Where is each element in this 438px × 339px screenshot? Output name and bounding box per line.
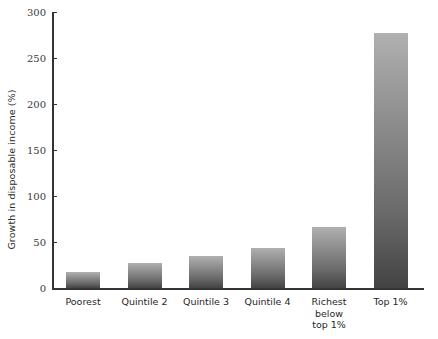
y-axis-tick-label: 300 (27, 7, 46, 18)
bar-chart: Growth in disposable income (%) 05010015… (0, 0, 438, 339)
y-axis-tick-label: 100 (27, 191, 46, 202)
y-axis-tick-label: 150 (27, 145, 46, 156)
y-axis-tick-mark (53, 150, 57, 151)
bar (189, 256, 223, 288)
plot-area: 050100150200250300 PoorestQuintile 2Quin… (53, 12, 424, 288)
y-axis-tick-mark (53, 242, 57, 243)
x-axis-tick-label: Top 1% (355, 296, 427, 308)
bar (66, 272, 100, 288)
y-axis-tick-mark (53, 288, 57, 289)
x-axis-line (52, 288, 424, 290)
y-axis-tick-mark (53, 58, 57, 59)
y-axis-tick-mark (53, 104, 57, 105)
y-axis-tick-label: 0 (40, 283, 46, 294)
bar (374, 33, 408, 288)
y-axis-title-container: Growth in disposable income (%) (2, 0, 20, 339)
y-axis-tick-label: 250 (27, 53, 46, 64)
y-axis-tick-mark (53, 12, 57, 13)
bar (251, 248, 285, 288)
y-axis-tick-mark (53, 196, 57, 197)
bar (128, 263, 162, 288)
y-axis-tick-label: 50 (33, 237, 46, 248)
y-axis-title: Growth in disposable income (%) (2, 0, 20, 339)
y-axis-tick-label: 200 (27, 99, 46, 110)
bar (312, 227, 346, 288)
